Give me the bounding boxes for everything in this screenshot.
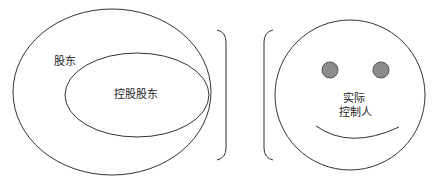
left-eye-icon <box>322 62 338 78</box>
right-eye-icon <box>373 62 389 78</box>
shareholders-label: 股东 <box>54 55 76 68</box>
actual-controller-label-line1: 实际 <box>343 92 365 105</box>
controlling-shareholder-label: 控股股东 <box>114 88 158 101</box>
shareholders-ellipse <box>13 9 211 175</box>
left-bracket <box>264 30 273 160</box>
diagram-canvas <box>0 0 444 182</box>
actual-controller-label-line2: 控制人 <box>339 106 372 119</box>
right-bracket <box>217 30 226 160</box>
smile-mouth <box>316 126 399 138</box>
